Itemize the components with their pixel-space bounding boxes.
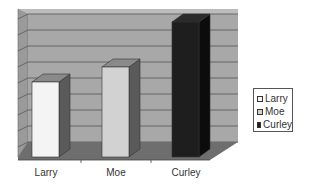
wall-top-edge [18, 9, 238, 14]
bar-moe [102, 59, 140, 157]
legend-label-moe: Moe [265, 106, 284, 117]
x-label-curley: Curley [172, 167, 201, 178]
legend-swatch-moe [257, 109, 263, 115]
legend-item-moe: Moe [257, 105, 292, 118]
legend-swatch-curley [257, 122, 261, 128]
left-wall [18, 9, 28, 157]
bar-curley [172, 14, 210, 157]
legend-label-larry: Larry [265, 93, 288, 104]
x-label-moe: Moe [106, 167, 125, 178]
bar-larry [32, 74, 70, 157]
legend-label-curley: Curley [263, 119, 292, 130]
legend-item-curley: Curley [257, 118, 292, 131]
legend-item-larry: Larry [257, 92, 292, 105]
legend: Larry Moe Curley [253, 88, 293, 132]
x-label-larry: Larry [35, 167, 58, 178]
legend-swatch-larry [257, 96, 263, 102]
